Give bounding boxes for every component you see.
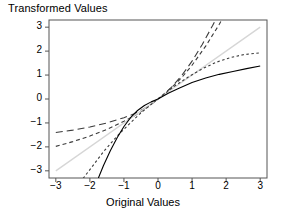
- chart-figure: Transformed Values −3−2−10123 3210−1−2−3…: [0, 0, 286, 216]
- y-tick-label: 1: [20, 68, 42, 79]
- y-tick-label: 2: [20, 44, 42, 55]
- x-axis-label: Original Values: [0, 196, 286, 208]
- x-tick-label: 0: [146, 180, 170, 191]
- x-tick-label: 1: [180, 180, 204, 191]
- series-line: [56, 0, 240, 146]
- y-tick-label: 0: [20, 92, 42, 103]
- y-tick-label: −3: [20, 164, 42, 175]
- x-tick-label: −1: [112, 180, 136, 191]
- y-tick-label: −1: [20, 116, 42, 127]
- x-tick-label: −2: [78, 180, 102, 191]
- y-tick-label: 3: [20, 20, 42, 31]
- x-tick-label: −3: [44, 180, 68, 191]
- x-tick-label: 2: [214, 180, 238, 191]
- x-tick-label: 3: [248, 180, 272, 191]
- y-tick-label: −2: [20, 140, 42, 151]
